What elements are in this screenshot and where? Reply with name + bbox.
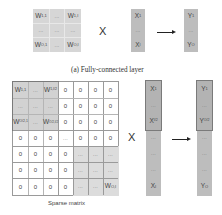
multiply-operator: X [99,25,106,37]
fc-caption: (a) Fully-connected layer [71,66,144,74]
ellipsis: ... [131,23,145,38]
zero-cell: 0 [28,162,43,178]
zero-cell: 0 [58,178,73,195]
ellipsis: ... [197,145,212,161]
multiply-operator: X [128,131,135,143]
zero-cell: 0 [88,114,103,130]
ellipsis: ... [88,146,103,162]
zero-cell: 0 [58,146,73,162]
zero-cell: 0 [28,146,43,162]
zero-cell: 0 [13,130,28,146]
zero-cell: 0 [58,162,73,178]
fc-input-vector: X1 ... XI [131,9,145,52]
ellipsis: ... [33,23,49,38]
ellipsis: ... [49,23,65,38]
zero-cell: 0 [73,114,88,130]
output-y-o2: YO/2 [197,113,212,129]
zero-cell: 0 [13,162,28,178]
zero-cell: 0 [88,130,103,146]
output-yo: YO [184,38,198,52]
output-y1: Y1 [197,81,212,97]
zero-cell: 0 [103,130,118,146]
zero-cell: 0 [88,82,103,98]
zero-cell: 0 [88,98,103,114]
arrow-icon [172,137,192,142]
zero-cell: 0 [43,162,58,178]
ellipsis: ... [146,129,161,145]
ellipsis: ... [184,23,198,38]
arrow-icon [157,30,177,35]
weight-wo2-i2: WO/2,I/2 [43,114,58,130]
input-xi: XI [131,38,145,52]
weight-w1i: W1,I [65,9,81,23]
ellipsis: ... [73,178,88,195]
zero-cell: 0 [103,114,118,130]
input-x1: X1 [131,9,145,23]
ellipsis: ... [146,97,161,113]
input-x1: X1 [146,81,161,97]
zero-cell: 0 [43,130,58,146]
zero-cell: 0 [73,130,88,146]
ellipsis: ... [43,98,58,114]
input-x-i2: XI/2 [146,113,161,129]
zero-cell: 0 [73,98,88,114]
output-y1: Y1 [184,9,198,23]
weight-woi: WO,I [65,38,81,52]
zero-cell: 0 [43,178,58,195]
ellipsis: ... [88,178,103,195]
weight-wo2-1: WO/2,1 [13,114,28,130]
sparse-matrix: W1,1 ... W1,I/2 0 0 0 0 ... ... ... 0 0 … [12,81,119,196]
ellipsis: ... [28,114,43,130]
zero-cell: 0 [43,146,58,162]
ellipsis: ... [103,162,118,178]
ellipsis: ... [146,145,161,161]
zero-cell: 0 [28,130,43,146]
weight-woi: WO,I [103,178,118,195]
ellipsis: ... [13,98,28,114]
ellipsis: ... [28,82,43,98]
output-yo: YO [197,177,212,196]
ellipsis: ... [88,162,103,178]
fc-weight-matrix: W1,1 ... W1,I ... ... ... WO,1 ... WO,I [33,9,81,52]
zero-cell: 0 [103,82,118,98]
sparse-input-vector: X1 ... XI/2 ... ... ... XI [146,81,161,196]
ellipsis: ... [73,146,88,162]
ellipsis: ... [73,162,88,178]
ellipsis: ... [65,23,81,38]
zero-cell: 0 [58,82,73,98]
sparse-caption: Sparse matrix [48,200,85,206]
zero-cell: 0 [28,178,43,195]
zero-cell: 0 [73,82,88,98]
weight-w11: W1,1 [13,82,28,98]
ellipsis: ... [197,161,212,177]
ellipsis: ... [49,9,65,23]
ellipsis: ... [28,98,43,114]
zero-cell: 0 [13,146,28,162]
zero-cell: 0 [13,178,28,195]
ellipsis: ... [103,146,118,162]
weight-w1-i2: W1,I/2 [43,82,58,98]
fc-output-vector: Y1 ... YO [184,9,198,52]
ellipsis: ... [49,38,65,52]
input-xi: XI [146,177,161,196]
zero-cell: 0 [58,98,73,114]
ellipsis: ... [58,130,73,146]
ellipsis: ... [197,97,212,113]
weight-wo1: WO,1 [33,38,49,52]
weight-w11: W1,1 [33,9,49,23]
ellipsis: ... [146,161,161,177]
zero-cell: 0 [103,98,118,114]
ellipsis: ... [197,129,212,145]
sparse-output-vector: Y1 ... YO/2 ... ... ... YO [197,81,212,196]
zero-cell: 0 [58,114,73,130]
